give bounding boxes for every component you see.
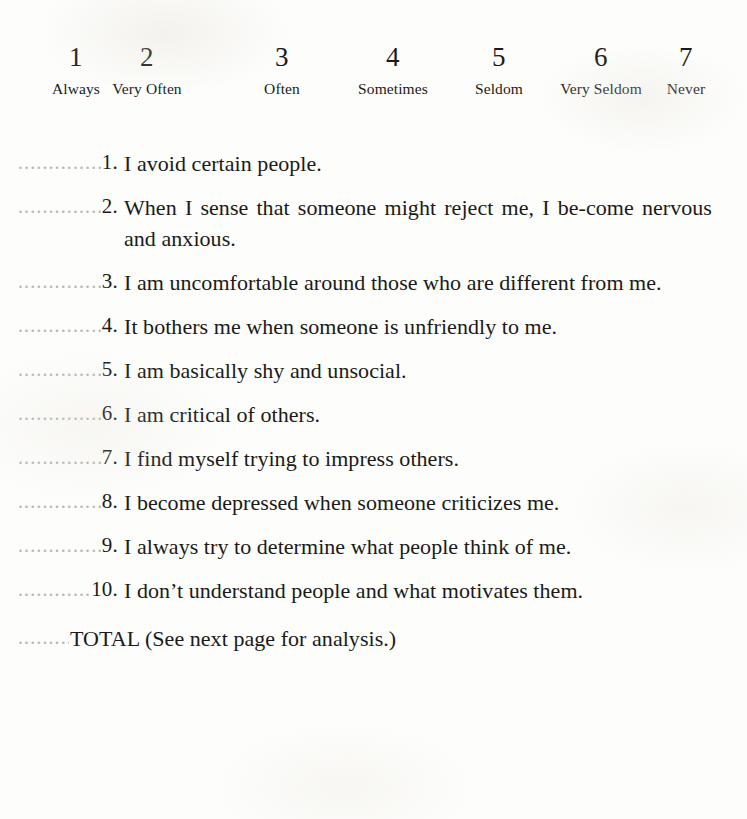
item-answer-blank[interactable]: ............... 7.	[18, 443, 118, 472]
scale-number-5: 5	[475, 42, 523, 72]
questionnaire-item[interactable]: ............... 10. I don’t understand p…	[0, 575, 747, 606]
item-answer-blank[interactable]: ............... 5.	[18, 355, 118, 384]
scale-number-4: 4	[358, 42, 428, 72]
item-number: 10.	[91, 575, 118, 604]
item-answer-blank[interactable]: ............... 10.	[18, 575, 118, 604]
scale-label-4: Sometimes	[358, 78, 428, 100]
questionnaire-item[interactable]: ............... 4. It bothers me when so…	[0, 311, 747, 342]
item-answer-blank[interactable]: ............... 8.	[18, 487, 118, 516]
item-text: I am uncomfortable around those who are …	[124, 267, 712, 298]
dotted-leader: ...............	[18, 148, 101, 177]
likert-scale-header: 1 Always 2 Very Often 3 Often 4 Sometime…	[0, 42, 747, 112]
item-text: I avoid certain people.	[124, 148, 712, 179]
scale-number-7: 7	[667, 42, 705, 72]
item-text: I am critical of others.	[124, 399, 712, 430]
item-answer-blank[interactable]: ............... 4.	[18, 311, 118, 340]
scale-number-1: 1	[52, 42, 100, 72]
item-number: 8.	[102, 487, 118, 516]
item-text: I become depressed when someone criticiz…	[124, 487, 712, 518]
item-answer-blank[interactable]: ............... 6.	[18, 399, 118, 428]
item-text: I always try to determine what people th…	[124, 531, 712, 562]
scale-point-5: 5 Seldom	[475, 42, 523, 100]
questionnaire-item[interactable]: ............... 1. I avoid certain peopl…	[0, 148, 747, 179]
item-text: When I sense that someone might reject m…	[124, 192, 712, 254]
questionnaire-item[interactable]: ............... 8. I become depressed wh…	[0, 487, 747, 518]
item-number: 6.	[102, 399, 118, 428]
dotted-leader: ...............	[18, 399, 101, 428]
item-number: 4.	[102, 311, 118, 340]
scale-label-1: Always	[52, 78, 100, 100]
item-answer-blank[interactable]: ............... 2.	[18, 192, 118, 221]
scale-point-3: 3 Often	[264, 42, 300, 100]
total-label: TOTAL (See next page for analysis.)	[70, 623, 747, 654]
questionnaire-item[interactable]: ............... 5. I am basically shy an…	[0, 355, 747, 386]
scale-point-6: 6 Very Seldom	[560, 42, 642, 100]
item-number: 1.	[102, 148, 118, 177]
dotted-leader: ...............	[18, 443, 101, 472]
item-text: I am basically shy and unsocial.	[124, 355, 712, 386]
dotted-leader: ...............	[18, 531, 101, 560]
questionnaire-item[interactable]: ............... 3. I am uncomfortable ar…	[0, 267, 747, 298]
questionnaire-item[interactable]: ............... 7. I find myself trying …	[0, 443, 747, 474]
total-answer-blank[interactable]: ...............	[18, 623, 70, 652]
questionnaire-item[interactable]: ............... 6. I am critical of othe…	[0, 399, 747, 430]
scale-point-2: 2 Very Often	[112, 42, 181, 100]
item-answer-blank[interactable]: ............... 3.	[18, 267, 118, 296]
questionnaire-item[interactable]: ............... 9. I always try to deter…	[0, 531, 747, 562]
scale-point-1: 1 Always	[52, 42, 100, 100]
dotted-leader: ...............	[18, 355, 101, 384]
scale-label-6: Very Seldom	[560, 78, 642, 100]
scale-label-2: Very Often	[112, 78, 181, 100]
scale-point-7: 7 Never	[667, 42, 705, 100]
item-answer-blank[interactable]: ............... 1.	[18, 148, 118, 177]
scale-number-6: 6	[560, 42, 642, 72]
dotted-leader: ...............	[18, 192, 101, 221]
scale-label-5: Seldom	[475, 78, 523, 100]
item-number: 5.	[102, 355, 118, 384]
questionnaire-item-list: ............... 1. I avoid certain peopl…	[0, 148, 747, 654]
scale-point-4: 4 Sometimes	[358, 42, 428, 100]
dotted-leader: ...............	[18, 623, 69, 652]
scale-label-7: Never	[667, 78, 705, 100]
scale-label-3: Often	[264, 78, 300, 100]
item-number: 7.	[102, 443, 118, 472]
item-text: It bothers me when someone is unfriendly…	[124, 311, 712, 342]
item-number: 9.	[102, 531, 118, 560]
dotted-leader: ...............	[18, 267, 101, 296]
item-number: 2.	[102, 192, 118, 221]
dotted-leader: ...............	[18, 311, 101, 340]
total-row[interactable]: ............... TOTAL (See next page for…	[0, 623, 747, 654]
scale-number-3: 3	[264, 42, 300, 72]
questionnaire-item[interactable]: ............... 2. When I sense that som…	[0, 192, 747, 254]
dotted-leader: ...............	[18, 487, 101, 516]
dotted-leader: ...............	[18, 575, 90, 604]
item-text: I don’t understand people and what motiv…	[124, 575, 712, 606]
scale-number-2: 2	[112, 42, 181, 72]
item-text: I find myself trying to impress others.	[124, 443, 712, 474]
item-number: 3.	[102, 267, 118, 296]
item-answer-blank[interactable]: ............... 9.	[18, 531, 118, 560]
